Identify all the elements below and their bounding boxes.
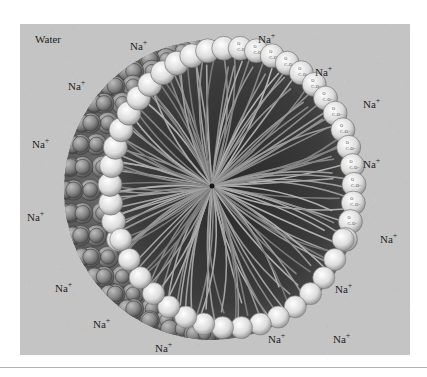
panel-speckle bbox=[40, 335, 41, 336]
head-group bbox=[110, 229, 132, 251]
panel-speckle bbox=[51, 331, 52, 332]
surface-atom bbox=[96, 96, 112, 112]
panel-speckle bbox=[327, 352, 328, 353]
panel-speckle bbox=[22, 348, 23, 349]
panel-speckle bbox=[314, 32, 315, 33]
surface-atom bbox=[96, 269, 112, 285]
svg-text:C–O−: C–O− bbox=[349, 165, 360, 170]
surface-atom bbox=[83, 249, 99, 265]
panel-speckle bbox=[131, 24, 132, 25]
svg-text:O: O bbox=[284, 56, 287, 61]
panel-speckle bbox=[315, 46, 316, 47]
panel-speckle bbox=[404, 172, 405, 173]
panel-speckle bbox=[47, 163, 48, 164]
panel-speckle bbox=[390, 125, 391, 126]
surface-atom bbox=[89, 137, 104, 152]
panel-speckle bbox=[398, 320, 399, 321]
svg-text:C–O−: C–O− bbox=[323, 97, 334, 102]
panel-speckle bbox=[409, 29, 410, 30]
surface-atom bbox=[73, 137, 89, 153]
panel-speckle bbox=[67, 108, 68, 109]
panel-speckle bbox=[64, 133, 65, 134]
panel-speckle bbox=[371, 59, 372, 60]
panel-speckle bbox=[116, 64, 117, 65]
panel-speckle bbox=[76, 73, 77, 74]
micelle-figure: OC–O−OC–O−OC–O−OC–O−OC–O−OC–O−OC–O−OC–O−… bbox=[0, 0, 427, 377]
svg-text:O: O bbox=[347, 215, 350, 220]
panel-speckle bbox=[67, 127, 68, 128]
panel-speckle bbox=[373, 199, 374, 200]
panel-speckle bbox=[282, 342, 283, 343]
panel-speckle bbox=[31, 202, 32, 203]
panel-speckle bbox=[344, 83, 345, 84]
panel-speckle bbox=[361, 96, 362, 97]
panel-speckle bbox=[115, 41, 116, 42]
panel-speckle bbox=[56, 172, 57, 173]
head-group bbox=[212, 317, 234, 339]
svg-text:C–O−: C–O− bbox=[350, 202, 361, 207]
panel-speckle bbox=[89, 47, 90, 48]
surface-atom bbox=[89, 228, 104, 243]
surface-atom bbox=[73, 228, 89, 244]
panel-speckle bbox=[27, 284, 28, 285]
panel-speckle bbox=[398, 331, 399, 332]
panel-speckle bbox=[21, 91, 22, 92]
panel-speckle bbox=[52, 31, 53, 32]
panel-speckle bbox=[57, 219, 58, 220]
svg-text:O: O bbox=[349, 159, 352, 164]
panel-speckle bbox=[30, 94, 31, 95]
svg-text:O: O bbox=[350, 196, 353, 201]
panel-speckle bbox=[29, 131, 30, 132]
svg-text:O: O bbox=[269, 49, 272, 54]
svg-text:O: O bbox=[340, 123, 343, 128]
svg-text:C–O−: C–O− bbox=[346, 146, 357, 151]
panel-speckle bbox=[58, 266, 59, 267]
panel-speckle bbox=[199, 344, 200, 345]
panel-speckle bbox=[344, 303, 345, 304]
panel-speckle bbox=[406, 234, 407, 235]
panel-speckle bbox=[378, 56, 379, 57]
panel-speckle bbox=[327, 327, 328, 328]
panel-speckle bbox=[313, 324, 314, 325]
svg-text:C–O−: C–O− bbox=[332, 112, 343, 117]
panel-speckle bbox=[51, 315, 52, 316]
panel-speckle bbox=[52, 47, 53, 48]
panel-speckle bbox=[60, 313, 61, 314]
panel-speckle bbox=[372, 207, 373, 208]
panel-speckle bbox=[404, 112, 405, 113]
panel-speckle bbox=[139, 34, 140, 35]
panel-speckle bbox=[42, 109, 43, 110]
panel-speckle bbox=[390, 221, 391, 222]
panel-speckle bbox=[23, 274, 24, 275]
panel-speckle bbox=[21, 99, 22, 100]
panel-speckle bbox=[70, 265, 71, 266]
panel-speckle bbox=[370, 112, 371, 113]
panel-speckle bbox=[68, 63, 69, 64]
panel-speckle bbox=[295, 348, 296, 349]
panel-speckle bbox=[395, 170, 396, 171]
panel-speckle bbox=[391, 25, 392, 26]
panel-speckle bbox=[71, 132, 72, 133]
panel-speckle bbox=[383, 35, 384, 36]
surface-atom bbox=[115, 270, 129, 284]
panel-speckle bbox=[304, 58, 305, 59]
panel-speckle bbox=[67, 322, 68, 323]
panel-speckle bbox=[375, 200, 376, 201]
panel-speckle bbox=[315, 56, 316, 57]
micelle-center bbox=[210, 184, 215, 189]
panel-speckle bbox=[399, 52, 400, 53]
panel-speckle bbox=[21, 229, 22, 230]
head-group bbox=[332, 229, 354, 251]
panel-speckle bbox=[20, 185, 21, 186]
svg-text:O: O bbox=[346, 140, 349, 145]
panel-speckle bbox=[394, 194, 395, 195]
svg-text:O: O bbox=[298, 66, 301, 71]
panel-speckle bbox=[406, 242, 407, 243]
svg-text:O: O bbox=[311, 78, 314, 83]
panel-speckle bbox=[75, 122, 76, 123]
panel-speckle bbox=[27, 85, 28, 86]
panel-speckle bbox=[366, 338, 367, 339]
panel-speckle bbox=[389, 290, 390, 291]
panel-speckle bbox=[395, 226, 396, 227]
panel-speckle bbox=[408, 305, 409, 306]
